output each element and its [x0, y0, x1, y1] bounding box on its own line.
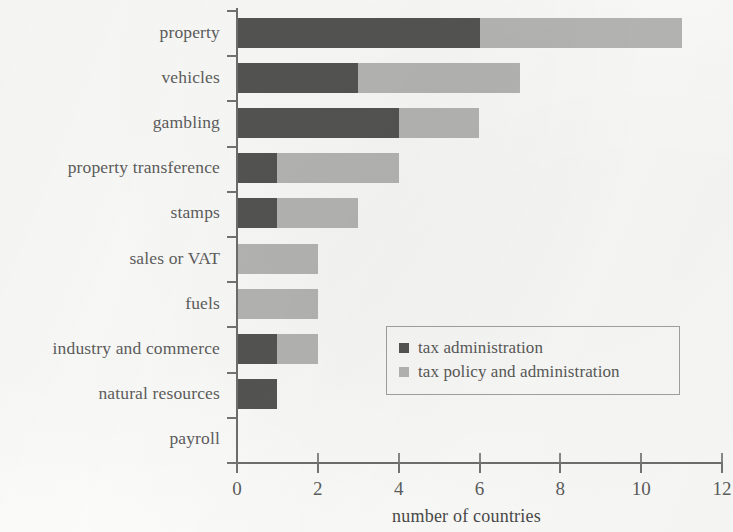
bar-segment [237, 198, 277, 228]
legend-item-tax-policy-and-administration: tax policy and administration [399, 360, 667, 384]
x-axis-tick-label: 0 [232, 478, 242, 500]
bar-row [237, 10, 722, 55]
bar-segment [237, 379, 277, 409]
x-axis-tick [317, 462, 319, 473]
bar-segment [277, 198, 358, 228]
x-axis-tick-label: 6 [475, 478, 485, 500]
bar-stack [237, 153, 399, 183]
bar-stack [237, 18, 682, 48]
bar-segment [237, 334, 277, 364]
chart-legend: tax administration tax policy and admini… [386, 326, 680, 395]
bar-segment [237, 63, 358, 93]
bar-segment [277, 334, 317, 364]
bar-segment [237, 108, 399, 138]
bar-segment [237, 244, 318, 274]
bar-stack [237, 244, 318, 274]
y-axis-tick [227, 236, 237, 238]
bar-stack [237, 289, 318, 319]
y-axis-tick [227, 10, 237, 12]
bar-stack [237, 108, 479, 138]
y-axis-category-label: property transference [0, 157, 228, 178]
x-axis-tick [398, 462, 400, 473]
x-axis-title: number of countries [0, 506, 733, 527]
bar-row [237, 191, 722, 236]
y-axis-category-label: natural resources [0, 383, 228, 404]
legend-swatch-dark-icon [399, 343, 409, 353]
x-axis-tick-label: 2 [313, 478, 323, 500]
y-axis-category-label: industry and commerce [0, 338, 228, 359]
x-axis-tick [236, 462, 238, 473]
y-axis-tick [227, 100, 237, 102]
bar-row [237, 146, 722, 191]
x-axis-tick [559, 462, 561, 473]
y-axis-category-label: gambling [0, 112, 228, 133]
bar-chart-figure: propertyvehiclesgamblingproperty transfe… [0, 0, 733, 532]
y-axis-tick [227, 417, 237, 419]
bar-row [237, 55, 722, 100]
bar-row [237, 100, 722, 145]
bar-segment [358, 63, 520, 93]
bar-segment [399, 108, 480, 138]
y-axis-category-label: property [0, 22, 228, 43]
y-axis-tick [227, 326, 237, 328]
legend-label-tax-administration: tax administration [418, 338, 543, 358]
y-axis-category-label: stamps [0, 202, 228, 223]
x-axis-tick-label: 4 [394, 478, 404, 500]
legend-label-tax-policy-and-administration: tax policy and administration [418, 362, 620, 382]
x-axis-title-text: number of countries [392, 506, 541, 527]
y-axis-category-label: payroll [0, 428, 228, 449]
y-axis-tick [227, 55, 237, 57]
bar-segment [237, 18, 480, 48]
x-axis-tick-label: 12 [713, 478, 732, 500]
x-axis-tick [640, 462, 642, 473]
bar-segment [237, 289, 318, 319]
y-axis-tick [227, 146, 237, 148]
bar-row [237, 281, 722, 326]
y-axis-tick [227, 372, 237, 374]
x-axis-tick-label: 10 [632, 478, 651, 500]
bar-segment [277, 153, 398, 183]
y-axis-category-label: sales or VAT [0, 248, 228, 269]
bar-stack [237, 334, 318, 364]
x-axis-tick [479, 462, 481, 473]
bar-stack [237, 63, 520, 93]
bar-segment [237, 153, 277, 183]
x-axis-tick-label: 8 [556, 478, 566, 500]
bar-segment [480, 18, 682, 48]
bar-stack [237, 379, 277, 409]
bar-stack [237, 198, 358, 228]
y-axis-tick [227, 191, 237, 193]
bar-row [237, 236, 722, 281]
y-axis-category-label: vehicles [0, 67, 228, 88]
y-axis-tick [227, 281, 237, 283]
y-axis-category-label: fuels [0, 293, 228, 314]
x-axis-tick [721, 462, 723, 473]
legend-item-tax-administration: tax administration [399, 336, 667, 360]
legend-swatch-light-icon [399, 367, 409, 377]
